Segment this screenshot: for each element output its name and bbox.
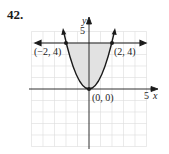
point-neg2-4 [64,41,68,45]
y-tick-label: 5 [80,25,85,36]
x-axis-label: x [152,90,158,101]
x-tick-label: 5 [144,90,149,101]
point-2-4 [110,41,114,45]
point-label-origin: (0, 0) [92,92,114,104]
point-label-2-4: (2, 4) [114,46,136,58]
point-origin [87,87,91,91]
graph: y 5 5 x (−2, 4) (2, 4) (0, 0) [0,0,169,154]
point-label-neg2-4: (−2, 4) [34,46,61,58]
